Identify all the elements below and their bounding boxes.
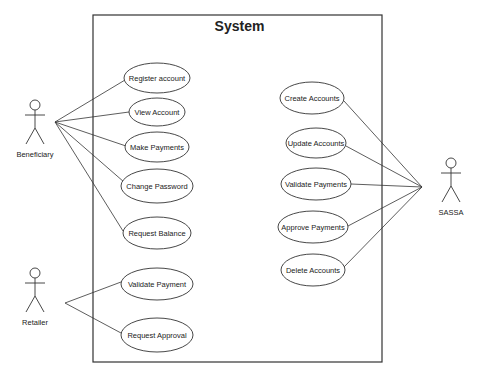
use-case-label: Update Accounts (288, 139, 345, 148)
use-case-diagram: System Register accountView AccountMake … (0, 0, 478, 375)
use-case-view-account[interactable]: View Account (129, 98, 185, 126)
stick-figure-icon (25, 100, 45, 144)
actor-label: Retailer (22, 318, 48, 327)
actor-sassa[interactable]: SASSA (438, 158, 463, 217)
use-case-register-account[interactable]: Register account (124, 63, 190, 93)
use-case-create-accounts[interactable]: Create Accounts (280, 82, 344, 114)
association-beneficiary-register-account (55, 80, 125, 122)
use-case-approve-payments[interactable]: Approve Payments (278, 211, 348, 243)
use-case-update-accounts[interactable]: Update Accounts (286, 128, 346, 158)
use-case-change-password[interactable]: Change Password (121, 169, 193, 203)
use-case-label: Create Accounts (284, 94, 339, 103)
use-cases: Register accountView AccountMake Payment… (121, 63, 351, 352)
actor-label: SASSA (438, 208, 463, 217)
stick-figure-icon (441, 158, 461, 202)
association-beneficiary-make-payments (55, 122, 126, 146)
association-sassa-validate-payments (351, 184, 422, 187)
use-case-label: Validate Payments (285, 180, 347, 189)
association-sassa-update-accounts (346, 146, 422, 187)
use-case-label: Change Password (126, 182, 187, 191)
use-case-label: Delete Accounts (286, 266, 340, 275)
use-case-label: Register account (129, 74, 186, 83)
association-beneficiary-request-balance (55, 122, 123, 231)
use-case-request-balance[interactable]: Request Balance (123, 217, 191, 249)
stick-figure-icon (25, 268, 45, 312)
association-beneficiary-view-account (55, 112, 129, 122)
actor-retailer[interactable]: Retailer (22, 268, 48, 327)
use-case-label: Make Payments (130, 143, 184, 152)
use-case-delete-accounts[interactable]: Delete Accounts (281, 254, 345, 286)
use-case-make-payments[interactable]: Make Payments (125, 132, 189, 162)
association-beneficiary-change-password (55, 122, 124, 182)
use-case-label: Request Balance (128, 229, 185, 238)
system-title: System (215, 18, 265, 34)
association-sassa-approve-payments (348, 187, 422, 226)
use-case-label: Validate Payment (128, 280, 187, 289)
actor-beneficiary[interactable]: Beneficiary (16, 100, 53, 159)
use-case-label: Approve Payments (281, 223, 345, 232)
associations (55, 80, 422, 333)
use-case-label: View Account (135, 108, 181, 117)
use-case-label: Request Approval (127, 331, 187, 340)
association-sassa-create-accounts (344, 101, 422, 187)
use-case-validate-payment[interactable]: Validate Payment (121, 268, 193, 300)
association-sassa-delete-accounts (344, 187, 422, 267)
use-case-validate-payments[interactable]: Validate Payments (281, 168, 351, 200)
actor-label: Beneficiary (16, 150, 53, 159)
use-case-request-approval[interactable]: Request Approval (121, 318, 193, 352)
